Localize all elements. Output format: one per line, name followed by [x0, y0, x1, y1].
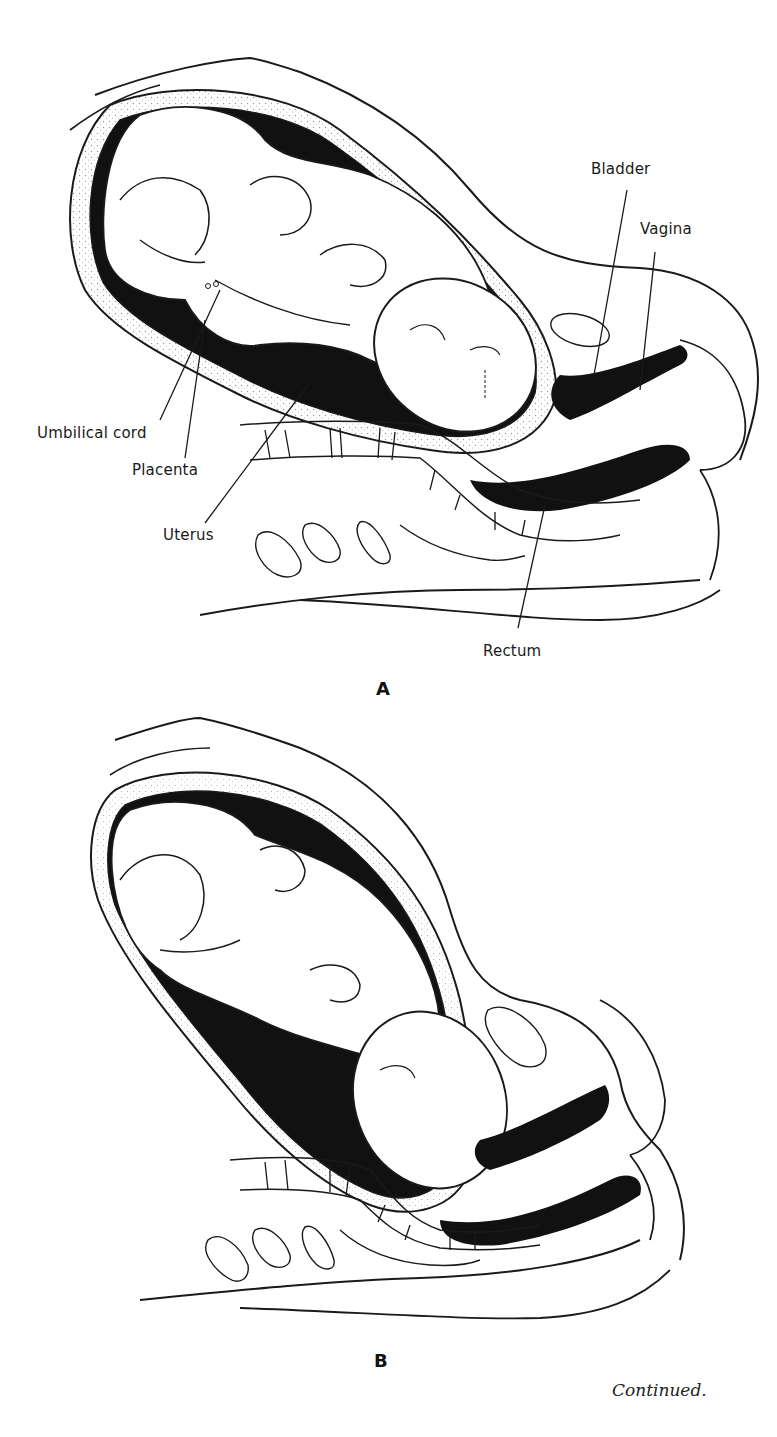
figure-a: Bladder Vagina Umbilical cord Placenta U… — [0, 0, 777, 700]
bladder-leader — [594, 190, 627, 375]
bladder-shape — [547, 308, 613, 353]
rectum-shape-b — [440, 1176, 641, 1246]
anatomy-illustration-b — [0, 700, 777, 1340]
figure-b: B — [0, 700, 777, 1340]
label-rectum: Rectum — [483, 642, 541, 660]
label-placenta: Placenta — [132, 461, 198, 479]
label-bladder: Bladder — [591, 160, 651, 178]
vagina-shape — [551, 345, 687, 420]
anatomy-illustration-a — [0, 0, 777, 700]
panel-letter-a: A — [376, 678, 390, 699]
caption-continued: Continued. — [612, 1380, 707, 1400]
panel-letter-b: B — [374, 1350, 388, 1371]
rectum-shape — [470, 445, 690, 511]
label-vagina: Vagina — [640, 220, 692, 238]
label-umbilical-cord: Umbilical cord — [37, 424, 147, 442]
rectum-leader — [518, 505, 545, 628]
label-uterus: Uterus — [163, 526, 214, 544]
bladder-shape-b — [486, 1007, 546, 1066]
